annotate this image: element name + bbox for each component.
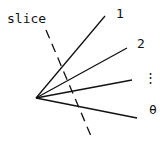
diagram-canvas: slice 1 2 ⋮ θ: [0, 0, 166, 144]
ray-label-theta: θ: [149, 102, 157, 117]
ray-label-ellipsis: ⋮: [144, 70, 157, 85]
ray-2: [36, 48, 127, 98]
slice-label: slice: [7, 11, 46, 26]
ray-diagram: slice 1 2 ⋮ θ: [0, 0, 166, 144]
ray-theta: [36, 98, 137, 118]
ray-3: [36, 80, 132, 98]
slice-line: [46, 30, 91, 136]
ray-label-1: 1: [116, 6, 124, 21]
ray-1: [36, 16, 105, 98]
ray-label-2: 2: [137, 36, 145, 51]
